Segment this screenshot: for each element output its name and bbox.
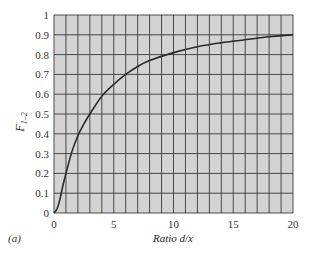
y-tick-label: 0.7: [35, 68, 49, 80]
y-axis-label: F1–2: [13, 112, 29, 132]
x-axis-label: Ratio d/x: [152, 232, 193, 244]
y-tick-label: 0.3: [35, 148, 49, 160]
y-tick-label: 0.1: [35, 187, 49, 199]
x-tick-label: 15: [228, 218, 240, 230]
y-tick-label: 0.9: [35, 29, 49, 41]
x-tick-label: 0: [51, 218, 57, 230]
y-tick-label: 1: [44, 9, 50, 21]
y-tick-label: 0.5: [35, 108, 49, 120]
y-tick-label: 0.2: [35, 167, 49, 179]
y-axis-label-sub: 1–2: [20, 112, 29, 124]
x-tick-label: 5: [111, 218, 117, 230]
x-tick-label: 20: [288, 218, 300, 230]
y-tick-label: 0.6: [35, 88, 49, 100]
y-tick-label: 0.8: [35, 49, 49, 61]
chart: 00.10.20.30.40.50.60.70.80.91 05101520 R…: [0, 0, 314, 256]
x-axis-ticks: 05101520: [51, 218, 299, 230]
y-tick-label: 0: [44, 207, 50, 219]
y-axis-ticks: 00.10.20.30.40.50.60.70.80.91: [35, 9, 49, 219]
y-tick-label: 0.4: [35, 128, 49, 140]
figure-caption: (a): [8, 232, 21, 244]
svg-text:F1–2: F1–2: [13, 112, 29, 132]
x-tick-label: 10: [168, 218, 180, 230]
